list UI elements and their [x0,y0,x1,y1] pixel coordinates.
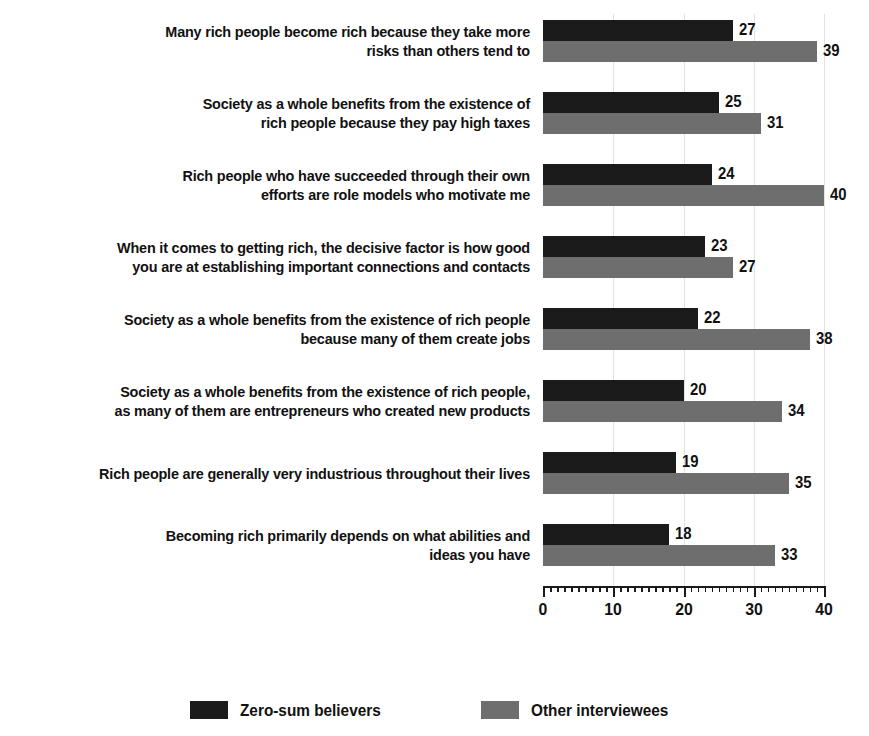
bar-row: Rich people who have succeeded through t… [0,164,869,236]
bar-primary [543,236,705,257]
tick-minor-27 [733,586,735,592]
tick-minor-1 [550,586,552,592]
tick-minor-38 [810,586,812,592]
bar-secondary [543,329,810,350]
legend-item-other-interviewees[interactable]: Other interviewees [481,701,679,720]
tick-minor-31 [761,586,763,592]
bar-value-label: 40 [830,184,847,205]
tick-label-30: 30 [745,600,763,620]
plot-area: Many rich people become rich because the… [0,0,869,600]
tick-minor-5 [578,586,580,592]
tick-minor-12 [627,586,629,592]
category-label: Becoming rich primarily depends on what … [56,526,530,564]
tick-minor-7 [592,586,594,592]
bar-row: Society as a whole benefits from the exi… [0,308,869,380]
tick-label-40: 40 [815,600,833,620]
tick-minor-28 [740,586,742,592]
bar-row: Rich people are generally very industrio… [0,452,869,524]
bar-value-label: 20 [690,379,707,400]
legend-label: Zero-sum believers [240,701,381,720]
tick-minor-23 [705,586,707,592]
tick-minor-34 [782,586,784,592]
tick-minor-18 [669,586,671,592]
tick-minor-4 [571,586,573,592]
tick-label-10: 10 [604,600,622,620]
bar-secondary [543,113,761,134]
bar-row: Society as a whole benefits from the exi… [0,380,869,452]
bar-value-label: 23 [711,235,728,256]
bar-primary [543,164,712,185]
tick-minor-11 [620,586,622,592]
bar-value-label: 33 [781,544,798,565]
tick-minor-21 [691,586,693,592]
tick-minor-37 [803,586,805,592]
bar-value-label: 18 [675,523,692,544]
tick-minor-13 [634,586,636,592]
bar-row: When it comes to getting rich, the decis… [0,236,869,308]
tick-minor-3 [564,586,566,592]
category-label: Society as a whole benefits from the exi… [56,382,530,420]
category-label: Society as a whole benefits from the exi… [56,94,530,132]
tick-minor-26 [726,586,728,592]
category-label: When it comes to getting rich, the decis… [56,238,530,276]
bar-secondary [543,185,824,206]
tick-minor-8 [599,586,601,592]
tick-minor-9 [606,586,608,592]
legend-label: Other interviewees [531,701,668,720]
bar-primary [543,524,669,545]
tick-minor-2 [557,586,559,592]
bar-value-label: 27 [739,19,756,40]
bar-secondary [543,401,782,422]
tick-minor-14 [641,586,643,592]
x-axis: 010203040 [543,586,824,636]
bar-primary [543,308,698,329]
bar-value-label: 35 [795,472,812,493]
bar-value-label: 19 [682,451,699,472]
tick-minor-29 [747,586,749,592]
tick-minor-25 [719,586,721,592]
bar-row: Society as a whole benefits from the exi… [0,92,869,164]
bar-chart: Many rich people become rich because the… [0,0,869,736]
tick-minor-22 [698,586,700,592]
tick-minor-32 [768,586,770,592]
tick-minor-33 [775,586,777,592]
category-label: Rich people who have succeeded through t… [56,166,530,204]
tick-minor-19 [676,586,678,592]
tick-major-0 [543,586,545,597]
bar-primary [543,20,733,41]
bar-secondary [543,41,817,62]
bar-value-label: 34 [788,400,805,421]
bar-value-label: 24 [718,163,735,184]
bar-secondary [543,545,775,566]
tick-major-10 [613,586,615,597]
tick-minor-15 [648,586,650,592]
tick-minor-36 [796,586,798,592]
bar-secondary [543,257,733,278]
bar-value-label: 27 [739,256,756,277]
bar-value-label: 39 [823,40,840,61]
tick-minor-24 [712,586,714,592]
bar-value-label: 25 [725,91,742,112]
legend-swatch-icon [190,701,228,719]
bar-secondary [543,473,789,494]
bar-primary [543,380,684,401]
bar-value-label: 22 [704,307,721,328]
category-label: Rich people are generally very industrio… [56,464,530,483]
bar-primary [543,452,676,473]
tick-label-20: 20 [675,600,693,620]
legend-item-zero-sum-believers[interactable]: Zero-sum believers [190,701,391,720]
category-label: Many rich people become rich because the… [56,22,530,60]
bar-primary [543,92,719,113]
chart-legend: Zero-sum believersOther interviewees [0,690,869,730]
tick-major-30 [754,586,756,597]
bar-value-label: 31 [767,112,784,133]
bar-value-label: 38 [816,328,833,349]
tick-minor-6 [585,586,587,592]
tick-minor-17 [662,586,664,592]
bar-row: Many rich people become rich because the… [0,20,869,92]
tick-major-20 [684,586,686,597]
legend-swatch-icon [481,701,519,719]
tick-minor-35 [789,586,791,592]
tick-label-0: 0 [539,600,548,620]
tick-major-40 [824,586,826,597]
